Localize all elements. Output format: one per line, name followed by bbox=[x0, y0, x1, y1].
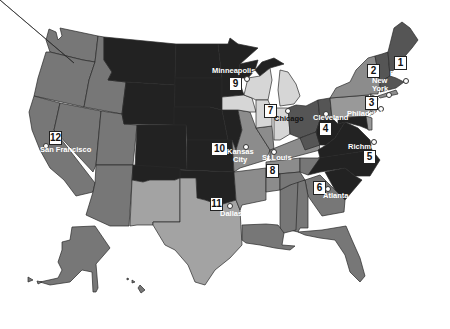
city-label-dallas: Dallas bbox=[220, 210, 242, 218]
city-label-york: York bbox=[372, 85, 388, 93]
city-label-chicago: Chicago bbox=[274, 115, 304, 123]
district-badge-5: 5 bbox=[363, 150, 376, 164]
district-badge-8: 8 bbox=[266, 164, 279, 178]
district-badge-9: 9 bbox=[229, 77, 242, 91]
city-label-philadelphia: Philadelphia bbox=[347, 110, 391, 118]
city-label-minneapolis: Minneapolis bbox=[212, 67, 255, 75]
district-badge-10: 10 bbox=[211, 142, 228, 156]
city-label-san-francisco: San Francisco bbox=[40, 146, 91, 154]
district-badge-4: 4 bbox=[319, 122, 332, 136]
city-dot-minneapolis bbox=[244, 76, 250, 82]
district-badge-3: 3 bbox=[365, 96, 378, 110]
district-badge-12: 12 bbox=[49, 131, 62, 145]
city-label-boston: Boston bbox=[390, 70, 416, 78]
city-label-cleveland: Cleveland bbox=[313, 114, 348, 122]
district-badge-1: 1 bbox=[394, 56, 407, 70]
city-dot-boston bbox=[403, 78, 409, 84]
city-label-atlanta: Atlanta bbox=[323, 192, 348, 200]
us-map bbox=[0, 0, 450, 329]
city-label-city: City bbox=[233, 156, 247, 164]
city-label-richmond: Richmond bbox=[348, 143, 385, 151]
city-label-st-louis: St.Louis bbox=[262, 154, 292, 162]
